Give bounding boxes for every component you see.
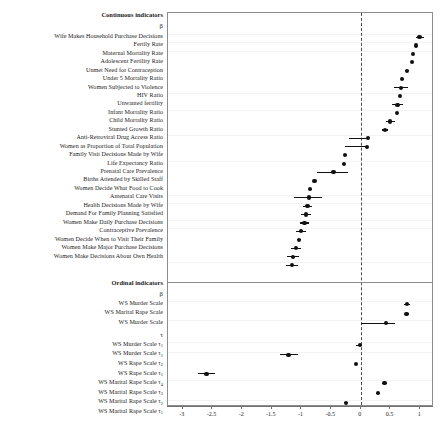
scan-guide-line [168,262,432,263]
point-estimate-marker [297,238,301,242]
row-label-continuous-26: Women Make Decisions About Own Health [54,253,163,259]
scan-guide-line [168,195,432,196]
row-label-continuous-5: Under 5 Mortality Ratio [103,75,163,81]
point-estimate-marker [331,170,335,174]
point-estimate-marker [376,391,380,395]
point-estimate-marker [405,302,409,306]
point-estimate-marker [411,52,415,56]
row-label-continuous-16: Prenatal Care Prevalence [101,168,163,174]
point-estimate-marker [405,69,409,73]
x-axis-tick-label: -3 [179,411,184,417]
scan-guide-line [168,301,432,302]
section-title-continuous: Continuous indicators [101,12,163,18]
point-estimate-marker [299,229,303,233]
x-axis-tick [300,406,301,409]
scan-guide-line [168,342,432,343]
confidence-interval-bar [361,323,395,324]
x-axis-tick-label: 1 [418,411,421,417]
scan-guide-line [168,320,432,321]
row-label-ordinal-tau-4: WS Marital Rape Scale τ4 [98,379,163,386]
row-label-ordinal-beta-2: WS Murder Scale [119,319,163,325]
row-label-ordinal-tau-7: WS Marital Rape Scale τ1 [98,408,163,415]
point-estimate-marker [404,312,408,316]
point-estimate-marker [342,162,346,166]
row-label-ordinal-beta-0: WS Murder Scale [119,300,163,306]
x-axis-tick [271,406,272,409]
x-axis-tick [360,406,361,409]
section-divider [168,282,432,283]
row-label-continuous-9: Infant Mortality Ratio [108,109,163,115]
scan-guide-line [168,220,432,221]
point-estimate-marker [307,195,311,199]
row-label-continuous-2: Maternal Mortality Rate [103,50,163,56]
row-label-continuous-7: HIV Ratio [137,92,163,98]
x-axis-tick [330,406,331,409]
point-estimate-marker [365,145,369,149]
scan-guide-line [168,51,432,52]
row-label-column: Continuous indicatorsβWife Makes Househo… [0,0,166,432]
row-label-continuous-0: Wife Makes Household Purchase Decisions [54,33,163,39]
x-axis-tick [182,406,183,409]
row-label-continuous-25: Women Make Major Purchase Decisions [62,244,163,250]
row-label-ordinal-tau-5: WS Marital Rape Scale τ3 [98,389,163,396]
x-axis-tick-label: -0.5 [325,411,335,417]
point-estimate-marker [294,246,298,250]
section-param-header-tau-ordinal: τ [160,332,163,338]
row-label-continuous-3: Adolescent Fertility Rate [100,58,163,64]
x-axis: -3-2.5-2-1.5-1-0.500.51 [167,406,433,432]
point-estimate-marker [400,77,404,81]
scan-guide-line [168,34,432,35]
point-estimate-marker [302,221,306,225]
point-estimate-marker [290,263,294,267]
scan-guide-line [168,110,432,111]
row-label-continuous-17: Births Attended by Skilled Staff [83,176,163,182]
row-label-continuous-12: Anti-Retroviral Drug Access Ratio [77,134,163,140]
x-axis-tick-label: -1.5 [266,411,276,417]
scan-guide-line [168,42,432,43]
row-label-continuous-4: Unmet Need for Contraception [86,67,163,73]
row-label-ordinal-tau-3: WS Rape Scale τ1 [118,370,163,377]
point-estimate-marker [399,86,403,90]
x-axis-tick-label: -1 [298,411,303,417]
point-estimate-marker [304,212,308,216]
point-estimate-marker [382,381,386,385]
row-label-continuous-19: Antenatal Care Visits [110,193,163,199]
point-estimate-marker [384,321,388,325]
x-axis-tick-label: 0 [358,411,361,417]
point-estimate-marker [312,179,316,183]
scan-guide-line [168,400,432,401]
scan-guide-line [168,93,432,94]
point-estimate-marker [204,372,208,376]
x-axis-tick [419,406,420,409]
plot-area [167,12,433,406]
point-estimate-marker [344,401,348,405]
x-axis-tick-label: -2 [239,411,244,417]
point-estimate-marker [383,128,387,132]
row-label-continuous-21: Demand For Family Planning Satisfied [66,210,163,216]
point-estimate-marker [410,60,414,64]
section-param-header-beta-continuous: β [160,23,163,29]
scan-guide-line [168,135,432,136]
x-axis-tick [211,406,212,409]
row-label-continuous-13: Women as Proportion of Total Population [60,143,163,149]
section-title-ordinal: Ordinal indicators [112,280,164,286]
row-label-continuous-11: Stunted Growth Ratio [109,126,164,132]
point-estimate-marker [354,362,358,366]
point-estimate-marker [366,136,370,140]
scan-guide-line [168,380,432,381]
row-label-ordinal-beta-1: WS Marital Rape Scale [105,309,163,315]
x-axis-tick [389,406,390,409]
point-estimate-marker [291,255,295,259]
row-label-ordinal-tau-6: WS Marital Rape Scale τ2 [98,398,163,405]
scan-guide-line [168,352,432,353]
x-axis-tick-label: -2.5 [207,411,217,417]
forest-plot-figure: Continuous indicatorsβWife Makes Househo… [0,0,443,432]
point-estimate-marker [343,153,347,157]
row-label-continuous-1: Fertily Rate [133,41,163,47]
x-axis-tick [241,406,242,409]
point-estimate-marker [398,94,402,98]
point-estimate-marker [308,187,312,191]
row-label-ordinal-tau-1: WS Murder Scale τ1 [112,350,163,357]
plot-inner [168,13,432,405]
point-estimate-marker [286,353,290,357]
